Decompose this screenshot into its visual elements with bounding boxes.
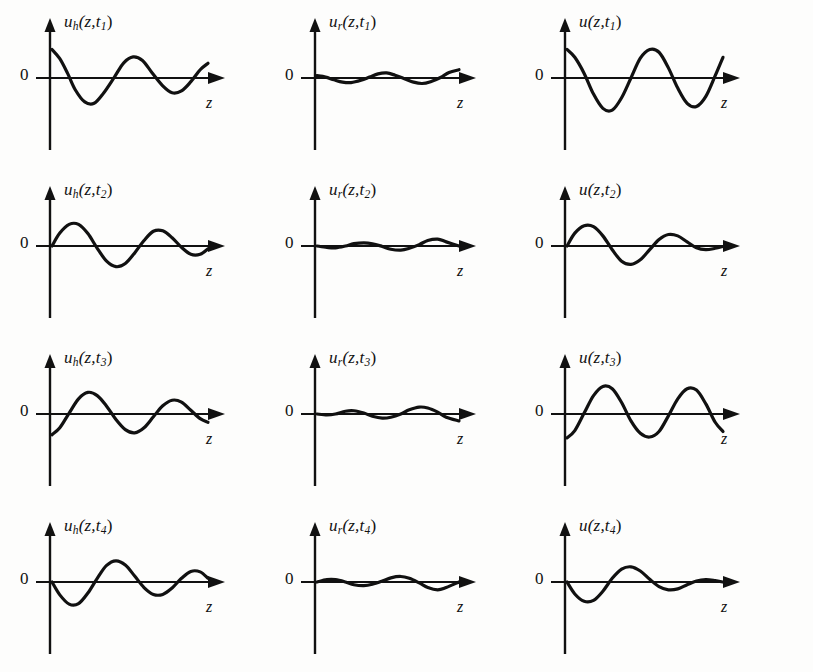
function-closing-paren: ) <box>616 516 622 535</box>
plot-axes-and-curve <box>0 336 265 504</box>
x-axis-arrowhead-icon <box>723 240 740 252</box>
function-symbol: u <box>64 348 73 367</box>
function-subscript: r <box>338 356 343 368</box>
function-subscript: h <box>73 356 79 368</box>
x-axis-arrowhead-icon <box>723 576 740 588</box>
y-axis-arrowhead-icon <box>560 186 571 200</box>
x-axis-variable-label: z <box>721 262 727 280</box>
function-closing-paren: ) <box>616 348 622 367</box>
function-subscript: h <box>73 188 79 200</box>
function-symbol: u <box>579 348 588 367</box>
plot-axes-and-curve <box>515 504 813 672</box>
time-index-subscript: 2 <box>610 188 616 200</box>
x-axis-arrowhead-icon <box>459 72 476 84</box>
function-arguments: (z,t <box>342 12 364 31</box>
function-closing-paren: ) <box>107 516 113 535</box>
y-axis-arrowhead-icon <box>560 354 571 368</box>
function-subscript: h <box>73 524 79 536</box>
function-arguments: (z,t <box>342 516 364 535</box>
function-subscript: r <box>338 20 343 32</box>
x-axis-arrowhead-icon <box>723 72 740 84</box>
x-axis-variable-label: z <box>721 430 727 448</box>
time-index-subscript: 2 <box>101 188 107 200</box>
time-index-subscript: 3 <box>364 356 370 368</box>
function-closing-paren: ) <box>616 12 622 31</box>
time-index-subscript: 3 <box>610 356 616 368</box>
function-arguments: (z,t <box>79 516 101 535</box>
panel-uh-t1: uh(z,t1)0z <box>0 0 265 168</box>
x-axis-arrowhead-icon <box>208 576 225 588</box>
origin-zero-label: 0 <box>535 65 544 85</box>
figure-grid: uh(z,t1)0zur(z,t1)0zu(z,t1)0zuh(z,t2)0zu… <box>0 0 813 672</box>
function-arguments: (z,t <box>79 180 101 199</box>
x-axis-variable-label: z <box>206 94 212 112</box>
function-label: uh(z,t4) <box>64 516 113 536</box>
time-index-subscript: 1 <box>610 20 616 32</box>
function-closing-paren: ) <box>107 348 113 367</box>
function-subscript: r <box>338 524 343 536</box>
origin-zero-label: 0 <box>20 233 29 253</box>
wave-curve <box>317 239 459 250</box>
panel-u-t2: u(z,t2)0z <box>515 168 813 336</box>
function-closing-paren: ) <box>370 348 376 367</box>
function-arguments: (z,t <box>588 180 610 199</box>
function-arguments: (z,t <box>79 12 101 31</box>
function-symbol: u <box>329 12 338 31</box>
function-subscript: h <box>73 20 79 32</box>
function-symbol: u <box>64 516 73 535</box>
origin-zero-label: 0 <box>285 569 294 589</box>
plot-axes-and-curve <box>515 336 813 504</box>
origin-zero-label: 0 <box>285 233 294 253</box>
function-subscript: r <box>338 188 343 200</box>
plot-axes-and-curve <box>265 0 515 168</box>
plot-axes-and-curve <box>515 168 813 336</box>
panel-u-t4: u(z,t4)0z <box>515 504 813 672</box>
plot-axes-and-curve <box>265 168 515 336</box>
function-arguments: (z,t <box>588 12 610 31</box>
function-closing-paren: ) <box>616 180 622 199</box>
x-axis-variable-label: z <box>206 598 212 616</box>
origin-zero-label: 0 <box>535 401 544 421</box>
time-index-subscript: 2 <box>364 188 370 200</box>
x-axis-variable-label: z <box>457 262 463 280</box>
function-label: u(z,t2) <box>579 180 622 200</box>
x-axis-arrowhead-icon <box>459 408 476 420</box>
function-closing-paren: ) <box>370 180 376 199</box>
wave-curve <box>317 576 459 589</box>
time-index-subscript: 3 <box>101 356 107 368</box>
function-label: uh(z,t2) <box>64 180 113 200</box>
plot-axes-and-curve <box>515 0 813 168</box>
wave-curve <box>567 567 723 602</box>
x-axis-arrowhead-icon <box>208 408 225 420</box>
y-axis-arrowhead-icon <box>310 354 321 368</box>
function-symbol: u <box>329 348 338 367</box>
function-symbol: u <box>64 180 73 199</box>
y-axis-arrowhead-icon <box>45 18 56 32</box>
panel-u-t3: u(z,t3)0z <box>515 336 813 504</box>
function-symbol: u <box>329 180 338 199</box>
x-axis-variable-label: z <box>457 598 463 616</box>
function-symbol: u <box>579 180 588 199</box>
function-closing-paren: ) <box>370 516 376 535</box>
wave-curve <box>567 49 723 111</box>
panel-uh-t3: uh(z,t3)0z <box>0 336 265 504</box>
x-axis-variable-label: z <box>206 262 212 280</box>
function-arguments: (z,t <box>588 348 610 367</box>
function-label: ur(z,t1) <box>329 12 376 32</box>
x-axis-variable-label: z <box>721 94 727 112</box>
origin-zero-label: 0 <box>535 569 544 589</box>
panel-uh-t2: uh(z,t2)0z <box>0 168 265 336</box>
plot-axes-and-curve <box>265 336 515 504</box>
y-axis-arrowhead-icon <box>310 522 321 536</box>
wave-curve <box>317 70 459 84</box>
function-label: u(z,t3) <box>579 348 622 368</box>
y-axis-arrowhead-icon <box>45 186 56 200</box>
plot-axes-and-curve <box>0 0 265 168</box>
x-axis-arrowhead-icon <box>459 240 476 252</box>
plot-axes-and-curve <box>0 504 265 672</box>
time-index-subscript: 4 <box>610 524 616 536</box>
function-label: ur(z,t2) <box>329 180 376 200</box>
function-closing-paren: ) <box>107 180 113 199</box>
time-index-subscript: 4 <box>364 524 370 536</box>
y-axis-arrowhead-icon <box>310 186 321 200</box>
